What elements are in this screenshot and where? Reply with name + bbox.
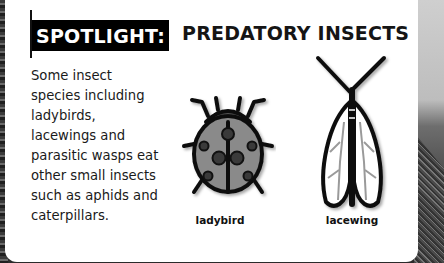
description-line: species including <box>31 86 171 106</box>
description-text: Some insect species including ladybirds,… <box>31 66 171 226</box>
spotlight-badge: SPOTLIGHT: <box>32 20 169 51</box>
description-line: other small insects <box>31 166 171 186</box>
lacewing-label: lacewing <box>322 214 382 226</box>
description-line: caterpillars. <box>31 206 171 226</box>
description-line: Some insect <box>31 66 171 86</box>
ladybird-label: ladybird <box>190 214 250 226</box>
page-title: PREDATORY INSECTS <box>182 22 409 44</box>
description-line: lacewings and <box>31 126 171 146</box>
description-line: parasitic wasps eat <box>31 146 171 166</box>
spotlight-badge-label: SPOTLIGHT: <box>36 25 165 47</box>
ladybird-icon <box>180 92 276 202</box>
lacewing-icon <box>310 52 394 214</box>
description-line: ladybirds, <box>31 106 171 126</box>
description-line: such as aphids and <box>31 186 171 206</box>
